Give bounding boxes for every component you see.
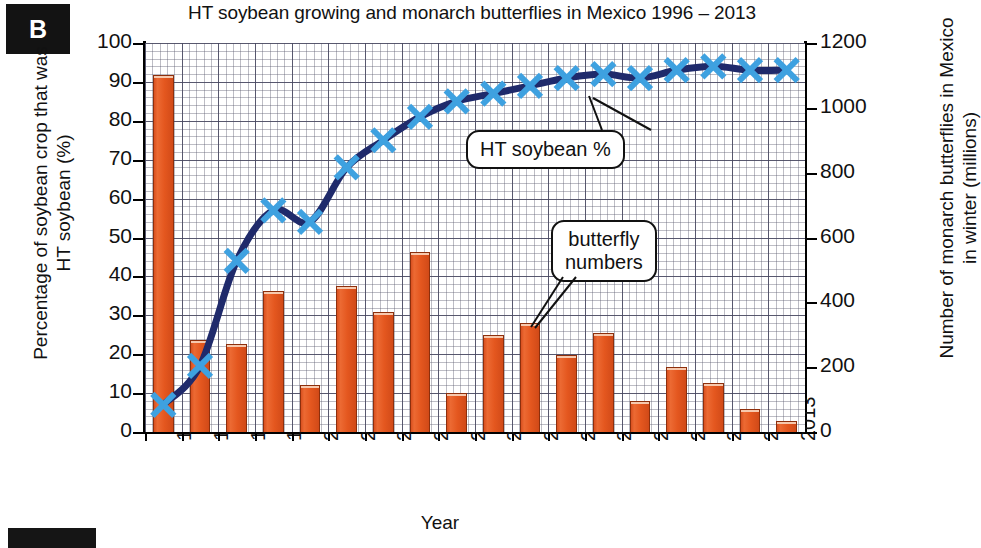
- tick-left: [133, 238, 145, 240]
- marker-x-2001: [336, 156, 358, 178]
- y-axis-left-tick-labels: 0102030405060708090100: [60, 0, 132, 546]
- tick-x: [695, 434, 697, 441]
- callout-ht-soybean-label: HT soybean %: [480, 138, 611, 160]
- tick-right: [805, 43, 817, 45]
- y-axis-left-tick-60: 60: [70, 185, 132, 209]
- y-axis-right-tick-labels: 020040060080010001200: [820, 0, 890, 546]
- y-axis-left-tick-10: 10: [70, 379, 132, 403]
- y-axis-left-tick-50: 50: [70, 224, 132, 248]
- tick-x: [402, 434, 404, 441]
- tick-x: [292, 434, 294, 441]
- tick-left: [133, 432, 145, 434]
- line-series-ht-soybean-percent: [145, 43, 805, 432]
- tick-left: [133, 354, 145, 356]
- callout-ht-soybean: HT soybean %: [466, 130, 625, 169]
- y-axis-left-tick-70: 70: [70, 146, 132, 170]
- tick-left: [133, 276, 145, 278]
- x-axis-title: Year: [0, 512, 880, 534]
- tick-x: [475, 434, 477, 441]
- tick-left: [133, 315, 145, 317]
- marker-x-2002: [372, 129, 394, 151]
- y-axis-left-tick-90: 90: [70, 68, 132, 92]
- callout-butterfly-numbers: butterfly numbers: [551, 220, 657, 282]
- tick-x: [732, 434, 734, 441]
- tick-x: [365, 434, 367, 441]
- tick-left: [133, 393, 145, 395]
- tick-right: [805, 432, 817, 434]
- line-path-ht-soybean: [163, 66, 786, 405]
- tick-right: [805, 108, 817, 110]
- tick-x: [622, 434, 624, 441]
- chart-title: HT soybean growing and monarch butterfli…: [92, 2, 852, 24]
- tick-x: [255, 434, 257, 441]
- y-axis-right-tick-800: 800: [820, 159, 886, 183]
- tick-x: [658, 434, 660, 441]
- tick-x: [548, 434, 550, 441]
- plot-area: [145, 43, 805, 432]
- tick-right: [805, 302, 817, 304]
- y-axis-right-tick-0: 0: [820, 418, 886, 442]
- y-axis-right-tick-1200: 1200: [820, 29, 886, 53]
- y-axis-right-tick-200: 200: [820, 353, 886, 377]
- y-axis-right-tick-1000: 1000: [820, 94, 886, 118]
- y-axis-left-tick-30: 30: [70, 301, 132, 325]
- marker-x-1996: [152, 394, 174, 416]
- y-axis-left-tick-0: 0: [70, 418, 132, 442]
- callout-butterfly-line2: numbers: [565, 251, 643, 274]
- y-axis-left-tick-20: 20: [70, 340, 132, 364]
- tick-left: [133, 121, 145, 123]
- tick-left: [133, 82, 145, 84]
- y-axis-right-title: Number of monarch butterflies in Mexico …: [935, 8, 981, 368]
- callout-butterfly-line1: butterfly: [565, 228, 643, 251]
- y-axis-left-tick-100: 100: [70, 29, 132, 53]
- y-axis-left-tick-40: 40: [70, 262, 132, 286]
- tick-left: [133, 160, 145, 162]
- tick-left: [133, 43, 145, 45]
- y-axis-right-tick-400: 400: [820, 288, 886, 312]
- tick-x: [438, 434, 440, 441]
- tick-x: [218, 434, 220, 441]
- tick-right: [805, 367, 817, 369]
- tick-x: [512, 434, 514, 441]
- tick-x: [145, 434, 147, 441]
- y-axis-right-tick-600: 600: [820, 224, 886, 248]
- tick-left: [133, 199, 145, 201]
- y-axis-left-tick-80: 80: [70, 107, 132, 131]
- tick-right: [805, 238, 817, 240]
- tick-x: [328, 434, 330, 441]
- tick-x: [182, 434, 184, 441]
- tick-x: [768, 434, 770, 441]
- tick-x: [585, 434, 587, 441]
- tick-right: [805, 173, 817, 175]
- marker-x-2003: [409, 106, 431, 128]
